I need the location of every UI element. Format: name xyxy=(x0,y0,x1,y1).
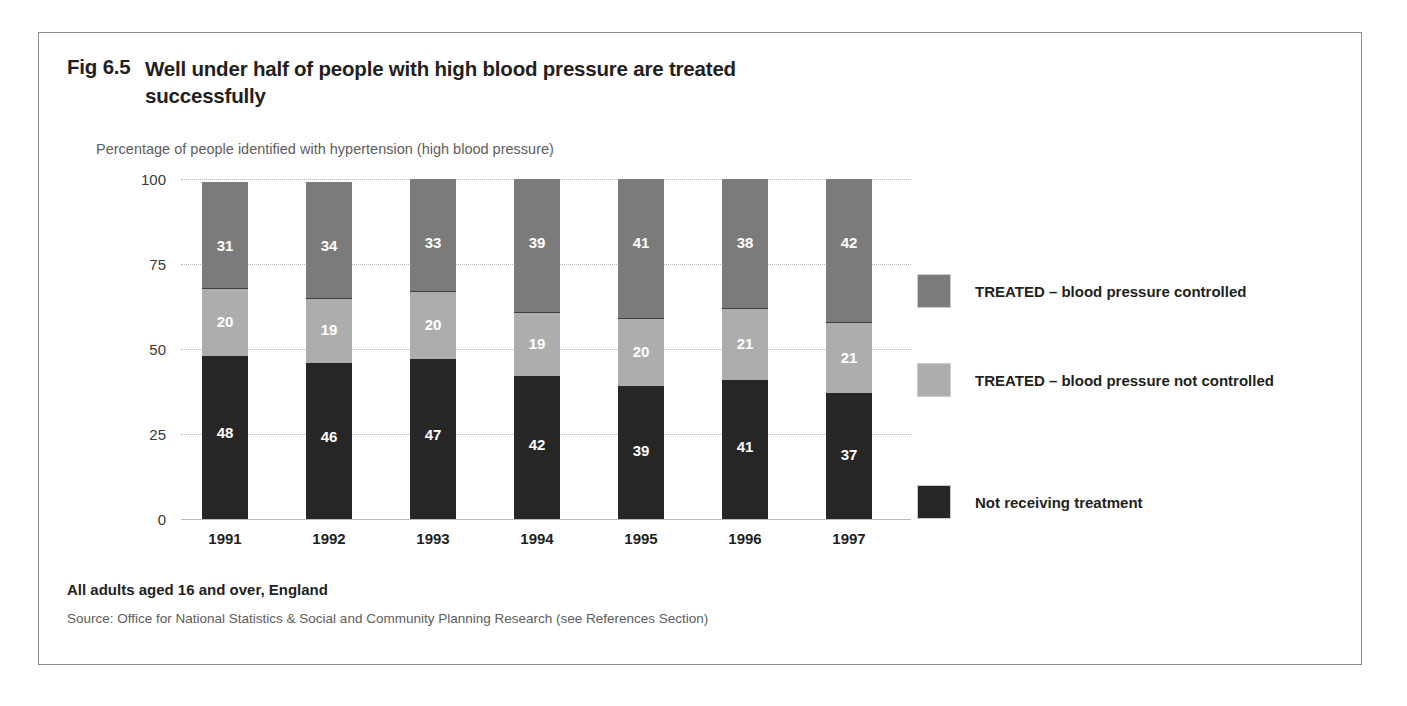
bar-segment[interactable]: 31 xyxy=(202,182,248,287)
legend-swatch xyxy=(917,485,951,519)
bar-segment[interactable]: 39 xyxy=(514,179,560,312)
bar-value-label: 19 xyxy=(306,321,352,338)
bar-segment[interactable]: 46 xyxy=(306,363,352,519)
y-axis-tick-label: 50 xyxy=(149,341,166,358)
x-axis-tick-label: 1996 xyxy=(728,530,761,547)
title-block: Fig 6.5 Well under half of people with h… xyxy=(67,55,827,110)
legend-item[interactable]: TREATED – blood pressure controlled xyxy=(917,274,1246,308)
bar-segment[interactable]: 19 xyxy=(306,298,352,363)
bar-segment[interactable]: 37 xyxy=(826,393,872,519)
bar-segment[interactable]: 41 xyxy=(722,380,768,519)
bar-segment[interactable]: 47 xyxy=(410,359,456,519)
figure-frame: Fig 6.5 Well under half of people with h… xyxy=(38,32,1362,665)
bar-segment[interactable]: 33 xyxy=(410,179,456,291)
bar-segment[interactable]: 38 xyxy=(722,179,768,308)
bar-segment[interactable]: 20 xyxy=(202,288,248,356)
bar-value-label: 47 xyxy=(410,426,456,443)
x-axis-tick-label: 1994 xyxy=(520,530,553,547)
bar-segment[interactable]: 41 xyxy=(618,179,664,318)
bar-group[interactable]: 3821411996 xyxy=(722,179,768,519)
bar-segment[interactable]: 42 xyxy=(826,179,872,322)
chart-plot-area: 0255075100312048199134194619923320471993… xyxy=(96,171,916,527)
bar-value-label: 46 xyxy=(306,428,352,445)
legend-swatch xyxy=(917,274,951,308)
bar-value-label: 42 xyxy=(826,234,872,251)
legend-item[interactable]: TREATED – blood pressure not controlled xyxy=(917,363,1274,397)
bar-group[interactable]: 3320471993 xyxy=(410,179,456,519)
bar-segment[interactable]: 20 xyxy=(618,318,664,386)
chart-canvas: 0255075100312048199134194619923320471993… xyxy=(181,179,911,519)
bar-value-label: 42 xyxy=(514,436,560,453)
y-axis-tick-label: 25 xyxy=(149,426,166,443)
legend-swatch xyxy=(917,363,951,397)
bar-value-label: 39 xyxy=(514,234,560,251)
figure-subtitle: Percentage of people identified with hyp… xyxy=(96,141,554,157)
bar-group[interactable]: 3120481991 xyxy=(202,182,248,519)
bar-value-label: 20 xyxy=(202,313,248,330)
bar-value-label: 20 xyxy=(618,343,664,360)
bar-segment[interactable]: 21 xyxy=(722,308,768,379)
bar-segment[interactable]: 21 xyxy=(826,322,872,393)
legend-item[interactable]: Not receiving treatment xyxy=(917,485,1143,519)
bar-segment[interactable]: 42 xyxy=(514,376,560,519)
bar-value-label: 48 xyxy=(202,424,248,441)
figure-number: Fig 6.5 xyxy=(67,55,131,79)
x-axis-tick-label: 1997 xyxy=(832,530,865,547)
bar-value-label: 39 xyxy=(618,442,664,459)
bar-value-label: 31 xyxy=(202,237,248,254)
bar-value-label: 41 xyxy=(722,438,768,455)
legend-label: Not receiving treatment xyxy=(975,494,1143,511)
bar-value-label: 37 xyxy=(826,446,872,463)
legend-label: TREATED – blood pressure not controlled xyxy=(975,372,1274,389)
x-axis-tick-label: 1992 xyxy=(312,530,345,547)
figure-title: Well under half of people with high bloo… xyxy=(145,55,827,110)
bar-value-label: 33 xyxy=(410,234,456,251)
bar-value-label: 38 xyxy=(722,234,768,251)
bar-value-label: 19 xyxy=(514,335,560,352)
bar-group[interactable]: 3919421994 xyxy=(514,179,560,519)
y-axis-tick-label: 75 xyxy=(149,256,166,273)
bar-group[interactable]: 4120391995 xyxy=(618,179,664,519)
bar-segment[interactable]: 48 xyxy=(202,356,248,519)
bar-segment[interactable]: 34 xyxy=(306,182,352,298)
bar-value-label: 21 xyxy=(826,349,872,366)
bar-value-label: 41 xyxy=(618,234,664,251)
bar-segment[interactable]: 19 xyxy=(514,312,560,377)
x-axis-tick-label: 1991 xyxy=(208,530,241,547)
bar-group[interactable]: 3419461992 xyxy=(306,182,352,519)
axis-baseline xyxy=(181,519,911,520)
bar-value-label: 34 xyxy=(306,237,352,254)
chart-footnote: All adults aged 16 and over, England xyxy=(67,581,328,598)
bar-group[interactable]: 4221371997 xyxy=(826,179,872,519)
chart-source: Source: Office for National Statistics &… xyxy=(67,611,708,626)
x-axis-tick-label: 1995 xyxy=(624,530,657,547)
y-axis-tick-label: 100 xyxy=(141,171,166,188)
bar-value-label: 21 xyxy=(722,335,768,352)
y-axis-tick-label: 0 xyxy=(158,511,166,528)
x-axis-tick-label: 1993 xyxy=(416,530,449,547)
bar-segment[interactable]: 20 xyxy=(410,291,456,359)
bar-segment[interactable]: 39 xyxy=(618,386,664,519)
bar-value-label: 20 xyxy=(410,316,456,333)
legend-label: TREATED – blood pressure controlled xyxy=(975,283,1246,300)
